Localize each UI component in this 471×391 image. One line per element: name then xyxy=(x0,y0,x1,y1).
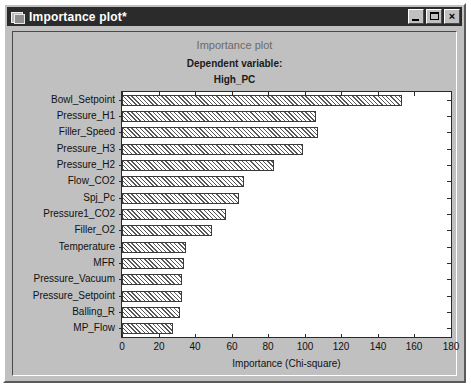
x-axis-tick-label: 140 xyxy=(370,341,387,352)
bar-row[interactable] xyxy=(122,209,226,220)
x-axis-tick xyxy=(378,334,379,338)
bar-row[interactable] xyxy=(122,111,316,122)
maximize-button[interactable] xyxy=(426,9,442,24)
y-axis-tick-right xyxy=(447,279,451,280)
importance-plot-window: Importance plot* × Importance plot Depen… xyxy=(3,3,466,383)
y-axis-label: Pressure_H1 xyxy=(57,110,115,121)
bar-spj_pc[interactable] xyxy=(122,193,239,204)
y-axis-tick xyxy=(119,247,122,248)
bar-temperature[interactable] xyxy=(122,242,186,253)
y-axis-label: Pressure1_CO2 xyxy=(43,208,115,219)
x-axis-tick-label: 60 xyxy=(226,341,237,352)
bar-row[interactable] xyxy=(122,225,212,236)
x-axis-tick xyxy=(195,334,196,338)
chart-panel: Importance plot Dependent variable: High… xyxy=(12,31,457,376)
y-axis-tick-right xyxy=(447,165,451,166)
bar-row[interactable] xyxy=(122,274,182,285)
y-axis-tick xyxy=(119,214,122,215)
x-axis-tick xyxy=(159,334,160,338)
bar-mfr[interactable] xyxy=(122,258,184,269)
y-axis-tick xyxy=(119,263,122,264)
x-axis-tick-top xyxy=(341,92,342,96)
plot-area xyxy=(121,91,452,338)
bar-row[interactable] xyxy=(122,242,186,253)
bar-pressure_h2[interactable] xyxy=(122,160,274,171)
bar-pressure_vacuum[interactable] xyxy=(122,274,182,285)
y-axis-label: Balling_R xyxy=(72,306,115,317)
y-axis-tick xyxy=(119,132,122,133)
bar-row[interactable] xyxy=(122,176,244,187)
y-axis-tick-right xyxy=(447,296,451,297)
x-axis-tick-label: 120 xyxy=(333,341,350,352)
x-axis-tick-label: 180 xyxy=(443,341,460,352)
x-axis-tick-top xyxy=(451,92,452,96)
bar-row[interactable] xyxy=(122,144,303,155)
bar-row[interactable] xyxy=(122,193,239,204)
x-axis-tick xyxy=(268,334,269,338)
x-axis-tick-top xyxy=(378,92,379,96)
y-axis-label: Temperature xyxy=(59,241,115,252)
bar-pressure_h1[interactable] xyxy=(122,111,316,122)
x-axis-tick-top xyxy=(305,92,306,96)
bar-bowl_setpoint[interactable] xyxy=(122,95,402,106)
x-axis-tick-top xyxy=(122,92,123,96)
bar-balling_r[interactable] xyxy=(122,307,180,318)
x-axis-tick-top xyxy=(232,92,233,96)
bar-pressure_h3[interactable] xyxy=(122,144,303,155)
y-axis-tick xyxy=(119,198,122,199)
y-axis-label: Pressure_Vacuum xyxy=(33,273,115,284)
bar-flow_co2[interactable] xyxy=(122,176,244,187)
bar-row[interactable] xyxy=(122,258,184,269)
y-axis-label: Pressure_H2 xyxy=(57,159,115,170)
window-controls: × xyxy=(408,9,460,24)
x-axis-tick xyxy=(305,334,306,338)
bar-row[interactable] xyxy=(122,323,173,334)
y-axis-label: Pressure_H3 xyxy=(57,143,115,154)
x-axis-title: Importance (Chi-square) xyxy=(121,358,452,369)
y-axis-label: MFR xyxy=(93,257,115,268)
y-axis-tick xyxy=(119,165,122,166)
y-axis-tick xyxy=(119,312,122,313)
y-axis-tick xyxy=(119,116,122,117)
bar-row[interactable] xyxy=(122,160,274,171)
bar-mp_flow[interactable] xyxy=(122,323,173,334)
x-axis-tick-top xyxy=(268,92,269,96)
chart-subtitle-label: Dependent variable: xyxy=(13,58,456,69)
x-axis-tick-label: 40 xyxy=(189,341,200,352)
minimize-button[interactable] xyxy=(408,9,424,24)
chart-subtitle-value: High_PC xyxy=(13,74,456,85)
y-axis-tick xyxy=(119,328,122,329)
y-axis-label: Bowl_Setpoint xyxy=(51,94,115,105)
bar-pressure_setpoint[interactable] xyxy=(122,291,182,302)
bar-filler_speed[interactable] xyxy=(122,127,318,138)
x-axis-tick xyxy=(232,334,233,338)
y-axis-label: MP_Flow xyxy=(73,322,115,333)
y-axis-tick-right xyxy=(447,230,451,231)
bar-row[interactable] xyxy=(122,127,318,138)
x-axis-tick-top xyxy=(195,92,196,96)
chart-title: Importance plot xyxy=(13,39,456,51)
x-axis-tick-label: 100 xyxy=(297,341,314,352)
y-axis-tick-right xyxy=(447,198,451,199)
bar-row[interactable] xyxy=(122,95,402,106)
bar-pressure1_co2[interactable] xyxy=(122,209,226,220)
window-titlebar[interactable]: Importance plot* × xyxy=(7,7,462,26)
x-axis-tick xyxy=(414,334,415,338)
y-axis-label: Filler_Speed xyxy=(59,126,115,137)
bar-row[interactable] xyxy=(122,291,182,302)
bar-row[interactable] xyxy=(122,307,180,318)
y-axis-tick-right xyxy=(447,132,451,133)
y-axis-tick-right xyxy=(447,214,451,215)
y-axis-label: Filler_O2 xyxy=(74,224,115,235)
bar-series xyxy=(122,92,451,337)
y-axis-tick-right xyxy=(447,181,451,182)
x-axis-tick-label: 80 xyxy=(262,341,273,352)
window-title: Importance plot* xyxy=(29,10,408,24)
x-axis-tick xyxy=(122,334,123,338)
bar-filler_o2[interactable] xyxy=(122,225,212,236)
y-axis-tick xyxy=(119,181,122,182)
close-button[interactable]: × xyxy=(444,9,460,24)
y-axis-tick-right xyxy=(447,100,451,101)
y-axis-label: Pressure_Setpoint xyxy=(33,290,115,301)
plot-window-icon xyxy=(10,10,25,24)
